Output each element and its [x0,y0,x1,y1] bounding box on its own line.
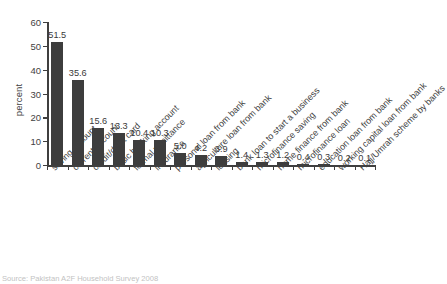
y-tick-mark [43,46,47,47]
bar-value-label: 51.5 [48,30,66,40]
y-tick-label: 40 [30,64,41,75]
y-tick-mark [43,117,47,118]
y-tick-label: 10 [30,136,41,147]
y-tick-label: 60 [30,17,41,28]
y-tick-mark [43,70,47,71]
y-tick-label: 20 [30,112,41,123]
y-tick-mark [43,22,47,23]
y-tick-mark [43,94,47,95]
source-note: Source: Pakistan A2F Household Survey 20… [2,274,158,283]
bar-value-label: 35.6 [69,68,87,78]
x-axis-category-labels: saving accountcurrent accountcredit/debi… [47,167,391,277]
y-axis-line [47,22,49,165]
y-tick-label: 0 [36,160,41,171]
bar [51,42,63,165]
y-tick-label: 50 [30,40,41,51]
y-axis-title: percent [13,70,24,130]
y-tick-mark [43,141,47,142]
y-tick-label: 30 [30,88,41,99]
